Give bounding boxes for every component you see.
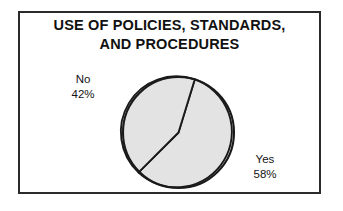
pie-label-yes: Yes 58% xyxy=(232,152,298,182)
chart-title-line-2: AND PROCEDURES xyxy=(18,35,321,54)
chart-title: USE OF POLICIES, STANDARDS, AND PROCEDUR… xyxy=(18,16,321,54)
pie-label-no-value: 42% xyxy=(52,87,114,102)
pie-label-yes-value: 58% xyxy=(232,167,298,182)
pie-label-no: No 42% xyxy=(52,72,114,102)
pie-label-no-name: No xyxy=(52,72,114,87)
pie-chart-figure: USE OF POLICIES, STANDARDS, AND PROCEDUR… xyxy=(0,0,343,211)
pie-chart-plot-area xyxy=(118,72,240,194)
chart-title-line-1: USE OF POLICIES, STANDARDS, xyxy=(18,16,321,35)
pie-chart-svg xyxy=(118,72,240,194)
pie-label-yes-name: Yes xyxy=(232,152,298,167)
